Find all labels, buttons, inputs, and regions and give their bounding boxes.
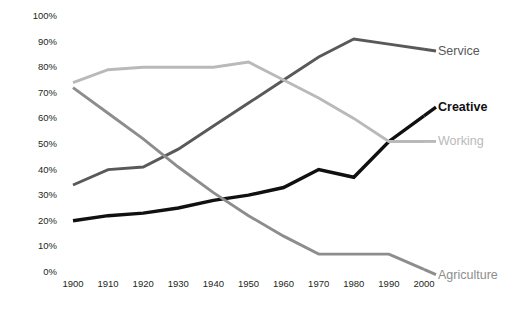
- series-label-creative: Creative: [438, 101, 487, 114]
- x-axis-tick-label: 1970: [308, 279, 329, 289]
- series-line-agriculture: [73, 88, 424, 270]
- series-label-agriculture: Agriculture: [438, 268, 498, 281]
- line-chart: 100%90%80%70%60%50%40%30%20%10%0% 190019…: [0, 0, 523, 314]
- series-stub-agriculture: [424, 269, 436, 274]
- x-axis-tick-label: 1920: [133, 279, 154, 289]
- x-axis-tick-label: 1950: [238, 279, 259, 289]
- x-axis-tick-label: 1980: [343, 279, 364, 289]
- x-axis-tick-label: 1990: [378, 279, 399, 289]
- series-stub-service: [424, 49, 436, 51]
- series-label-service: Service: [438, 45, 480, 58]
- x-axis-tick-label: 1900: [62, 279, 83, 289]
- x-axis-tick-label: 1940: [203, 279, 224, 289]
- x-axis-tick-label: 1930: [168, 279, 189, 289]
- x-axis-tick-label: 2000: [413, 279, 434, 289]
- series-stub-creative: [424, 107, 436, 116]
- x-axis-tick-label: 1910: [98, 279, 119, 289]
- x-axis: 1900191019201930194019501960197019801990…: [0, 279, 523, 299]
- x-axis-tick-label: 1960: [273, 279, 294, 289]
- series-label-working: Working: [438, 135, 484, 148]
